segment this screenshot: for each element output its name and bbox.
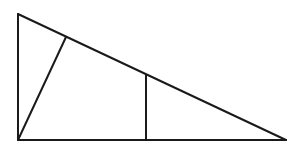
- cevian: [18, 37, 66, 140]
- triangle-diagram: [0, 0, 302, 148]
- hypotenuse: [18, 14, 286, 140]
